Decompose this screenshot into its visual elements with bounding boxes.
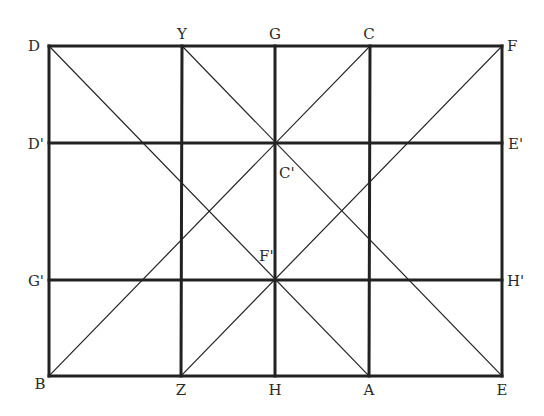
grid-lines [49,46,502,376]
diagram-canvas: DYGCFD'E'C'F'G'H'BZHAE [0,0,544,416]
point-label-Gp: G' [28,272,44,290]
vertical-CA [369,46,370,376]
vertical-YZ [181,46,182,376]
point-label-Cp: C' [279,164,295,182]
point-label-Dp: D' [28,135,44,153]
point-label-Fp: F' [259,247,274,265]
point-label-Ep: E' [508,135,523,153]
point-label-C: C [363,25,374,43]
point-label-B: B [34,375,45,393]
point-label-A: A [363,381,375,399]
point-label-F: F [507,37,517,55]
point-label-H: H [268,381,281,399]
point-label-Hp: H' [507,272,524,290]
point-label-D: D [28,37,40,55]
point-label-E: E [497,381,508,399]
point-label-Y: Y [176,25,188,43]
point-label-Z: Z [176,381,186,399]
grid-diagram: DYGCFD'E'C'F'G'H'BZHAE [0,0,544,416]
point-label-G: G [269,25,281,43]
